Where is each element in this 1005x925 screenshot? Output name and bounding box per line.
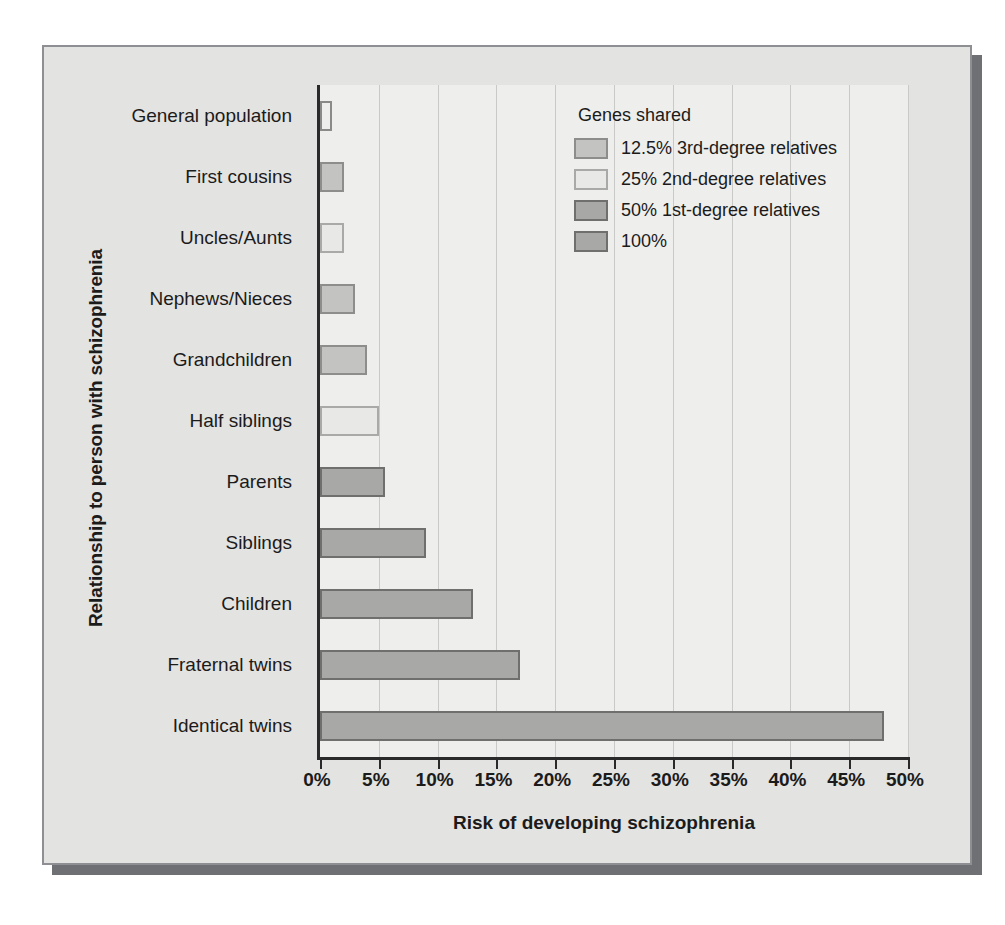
x-axis-ticks bbox=[320, 757, 908, 769]
legend-title: Genes shared bbox=[574, 105, 904, 126]
bar-row bbox=[320, 406, 908, 436]
bar-row bbox=[320, 589, 908, 619]
bar bbox=[320, 284, 355, 314]
x-axis-tick bbox=[379, 757, 381, 769]
bar bbox=[320, 162, 344, 192]
bar bbox=[320, 345, 367, 375]
y-axis-tick-label: Children bbox=[221, 593, 292, 615]
y-axis-tick-label: General population bbox=[131, 105, 292, 127]
x-axis-tick bbox=[614, 757, 616, 769]
x-axis-tick-label: 20% bbox=[533, 769, 571, 791]
y-axis-tick-label: Uncles/Aunts bbox=[180, 227, 292, 249]
bar-row bbox=[320, 345, 908, 375]
bar-row bbox=[320, 467, 908, 497]
x-axis-tick-label: 40% bbox=[768, 769, 806, 791]
x-axis-tick-labels: 0%5%10%15%20%25%30%35%40%45%50% bbox=[317, 769, 905, 799]
x-axis-tick bbox=[673, 757, 675, 769]
legend-item: 25% 2nd-degree relatives bbox=[574, 164, 904, 195]
legend-label: 25% 2nd-degree relatives bbox=[621, 169, 826, 190]
y-axis-tick-label: Half siblings bbox=[190, 410, 292, 432]
legend-swatch bbox=[574, 138, 608, 159]
x-axis-tick bbox=[555, 757, 557, 769]
bar bbox=[320, 528, 426, 558]
y-axis-tick-label: Grandchildren bbox=[173, 349, 292, 371]
legend-items: 12.5% 3rd-degree relatives25% 2nd-degree… bbox=[574, 133, 904, 257]
bar bbox=[320, 467, 385, 497]
legend: Genes shared 12.5% 3rd-degree relatives2… bbox=[574, 105, 904, 257]
legend-label: 12.5% 3rd-degree relatives bbox=[621, 138, 837, 159]
legend-item: 50% 1st-degree relatives bbox=[574, 195, 904, 226]
x-axis-tick-label: 0% bbox=[303, 769, 330, 791]
legend-label: 100% bbox=[621, 231, 667, 252]
x-axis-tick-label: 45% bbox=[827, 769, 865, 791]
y-axis-tick-label: Fraternal twins bbox=[167, 654, 292, 676]
x-axis-tick bbox=[790, 757, 792, 769]
x-axis-tick bbox=[438, 757, 440, 769]
x-axis-title: Risk of developing schizophrenia bbox=[274, 812, 934, 834]
x-axis-tick-label: 35% bbox=[710, 769, 748, 791]
y-axis-tick-label: Identical twins bbox=[173, 715, 292, 737]
y-axis-tick-label: First cousins bbox=[185, 166, 292, 188]
x-axis-tick-label: 15% bbox=[474, 769, 512, 791]
x-axis-tick bbox=[908, 757, 910, 769]
x-axis-tick-label: 25% bbox=[592, 769, 630, 791]
bar bbox=[320, 589, 473, 619]
bar-row bbox=[320, 284, 908, 314]
bar bbox=[320, 223, 344, 253]
bar-row bbox=[320, 528, 908, 558]
bar bbox=[320, 101, 332, 131]
bar-row bbox=[320, 711, 908, 741]
y-axis-tick-labels: General populationFirst cousinsUncles/Au… bbox=[44, 85, 306, 757]
bar bbox=[320, 650, 520, 680]
x-axis-tick bbox=[320, 757, 322, 769]
legend-swatch bbox=[574, 200, 608, 221]
x-axis-tick-label: 5% bbox=[362, 769, 389, 791]
y-axis-tick-label: Siblings bbox=[225, 532, 292, 554]
x-axis-tick-label: 10% bbox=[416, 769, 454, 791]
bar-row bbox=[320, 650, 908, 680]
x-axis-tick bbox=[849, 757, 851, 769]
y-axis-tick-label: Nephews/Nieces bbox=[149, 288, 292, 310]
gridline bbox=[908, 85, 909, 757]
y-axis-tick-label: Parents bbox=[227, 471, 292, 493]
x-axis-tick-label: 30% bbox=[651, 769, 689, 791]
legend-swatch bbox=[574, 169, 608, 190]
legend-item: 100% bbox=[574, 226, 904, 257]
bar bbox=[320, 711, 884, 741]
x-axis-tick-label: 50% bbox=[886, 769, 924, 791]
legend-item: 12.5% 3rd-degree relatives bbox=[574, 133, 904, 164]
x-axis-tick bbox=[732, 757, 734, 769]
legend-label: 50% 1st-degree relatives bbox=[621, 200, 820, 221]
chart-figure: Relationship to person with schizophreni… bbox=[42, 45, 972, 865]
legend-swatch bbox=[574, 231, 608, 252]
bar bbox=[320, 406, 379, 436]
x-axis-tick bbox=[496, 757, 498, 769]
